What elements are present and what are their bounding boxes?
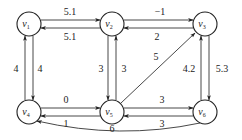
node-v5: v5 xyxy=(100,100,124,124)
node-v6: v6 xyxy=(193,100,217,124)
directed-graph: 5.1 5.1 −1 2 4 4 3 3 4.2 5.3 0 1 3 3 5 6… xyxy=(0,0,242,140)
weight-v2-v5: 3 xyxy=(99,63,104,74)
weight-v6-v4: 6 xyxy=(110,123,115,134)
node-v4: v4 xyxy=(17,100,41,124)
weight-v6-v5: 3 xyxy=(160,118,165,129)
weight-v6-v3: 4.2 xyxy=(183,63,196,74)
weight-v3-v2: 2 xyxy=(155,31,160,42)
weight-v2-v3: −1 xyxy=(155,6,166,17)
node-v1: v1 xyxy=(17,12,41,36)
weight-v5-v3: 5 xyxy=(154,51,159,62)
weight-v2-v1: 5.1 xyxy=(64,31,77,42)
node-v2: v2 xyxy=(100,12,124,36)
weight-v5-v6: 3 xyxy=(160,94,165,105)
weight-v5-v2: 3 xyxy=(122,63,127,74)
weight-v4-v1: 4 xyxy=(14,63,19,74)
weight-v1-v2: 5.1 xyxy=(64,6,77,17)
weight-v4-v5: 0 xyxy=(64,94,69,105)
weight-v3-v6: 5.3 xyxy=(216,63,229,74)
weight-v1-v4: 4 xyxy=(38,63,43,74)
node-v3: v3 xyxy=(193,12,217,36)
weight-v5-v4: 1 xyxy=(64,118,69,129)
